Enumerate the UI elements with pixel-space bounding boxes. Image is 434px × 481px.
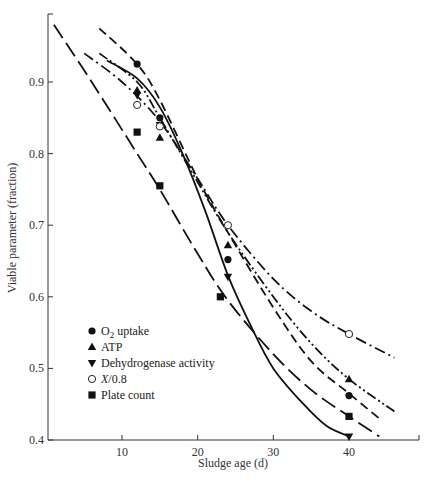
marker-plate-count xyxy=(345,413,352,420)
legend-marker-filled-square-icon xyxy=(88,391,95,398)
marker-plate-count xyxy=(134,129,141,136)
marker-o2-uptake xyxy=(134,61,141,68)
marker-plate-count xyxy=(217,293,224,300)
y-axis-title: Viable parameter (fraction) xyxy=(5,163,19,294)
y-ticks: 0.40.50.60.70.80.9 xyxy=(29,75,53,447)
marker-atp xyxy=(156,133,164,141)
legend-marker-filled-triangle-down-icon xyxy=(88,360,96,368)
x-tick-label: 10 xyxy=(116,445,128,459)
marker-o2-uptake xyxy=(224,256,231,263)
marker-x-0-8 xyxy=(134,101,141,108)
legend-label: X/0.8 xyxy=(100,372,127,386)
axes: 10203040 0.40.50.60.70.80.9 Sludge age (… xyxy=(5,14,419,470)
marker-atp xyxy=(224,241,232,249)
marker-x-0-8 xyxy=(224,222,231,229)
legend-marker-filled-triangle-up-icon xyxy=(88,343,96,351)
legend-marker-open-circle-icon xyxy=(88,375,95,382)
curve-dehydrogenase-activity xyxy=(107,61,349,437)
y-tick-label: 0.7 xyxy=(29,218,44,232)
x-axis-title: Sludge age (d) xyxy=(198,456,268,470)
legend-label: O2 uptake xyxy=(101,324,149,340)
marker-o2-uptake xyxy=(345,392,352,399)
y-tick-label: 0.5 xyxy=(29,361,44,375)
legend-label: Dehydrogenase activity xyxy=(101,356,215,370)
chart: 10203040 0.40.50.60.70.80.9 Sludge age (… xyxy=(0,0,434,481)
legend-label: ATP xyxy=(101,340,123,354)
marker-x-0-8 xyxy=(156,123,163,130)
marker-x-0-8 xyxy=(345,330,352,337)
marker-o2-uptake xyxy=(156,114,163,121)
marker-plate-count xyxy=(156,182,163,189)
y-tick-label: 0.8 xyxy=(29,147,44,161)
legend-label: Plate count xyxy=(101,388,155,402)
marker-dehydrogenase-activity xyxy=(224,274,232,282)
legend: O2 uptakeATPDehydrogenase activityX/0.8P… xyxy=(88,324,215,402)
x-tick-label: 30 xyxy=(267,445,279,459)
y-tick-label: 0.6 xyxy=(29,290,44,304)
curve-x-0-8 xyxy=(84,53,394,357)
legend-marker-filled-circle-icon xyxy=(88,327,95,334)
x-tick-label: 40 xyxy=(343,445,355,459)
y-tick-label: 0.4 xyxy=(29,433,44,447)
y-tick-label: 0.9 xyxy=(29,75,44,89)
